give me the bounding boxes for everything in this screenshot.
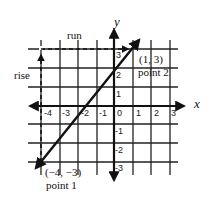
svg-text:-4: -4 (44, 108, 52, 118)
svg-text:0: 0 (117, 108, 122, 118)
point1-name: point 1 (46, 179, 77, 191)
svg-text:3: 3 (171, 108, 176, 118)
point2-name: point 2 (138, 66, 169, 78)
svg-text:-2: -2 (81, 108, 89, 118)
svg-text:2: 2 (116, 70, 121, 80)
svg-text:-2: -2 (115, 145, 123, 155)
run-label: run (67, 29, 82, 41)
line-through-points (36, 40, 139, 168)
svg-text:3: 3 (116, 50, 121, 60)
svg-text:-1: -1 (99, 108, 107, 118)
rise-label: rise (14, 69, 30, 81)
point2-coords: (1, 3) (139, 53, 163, 66)
point1-coords: (−4, −3) (45, 166, 82, 179)
svg-text:1: 1 (136, 108, 141, 118)
svg-text:-1: -1 (115, 126, 123, 136)
coordinate-plane-figure: -4 -3 -2 -1 0 1 2 3 3 2 1 -1 -2 -3 y x r… (0, 0, 210, 208)
svg-text:2: 2 (154, 108, 159, 118)
svg-text:1: 1 (116, 89, 121, 99)
x-tick-labels: -4 -3 -2 -1 0 1 2 3 (44, 108, 176, 118)
y-axis-label: y (112, 14, 120, 29)
svg-text:-3: -3 (115, 163, 123, 173)
svg-text:-3: -3 (62, 108, 70, 118)
x-axis-label: x (193, 96, 200, 111)
